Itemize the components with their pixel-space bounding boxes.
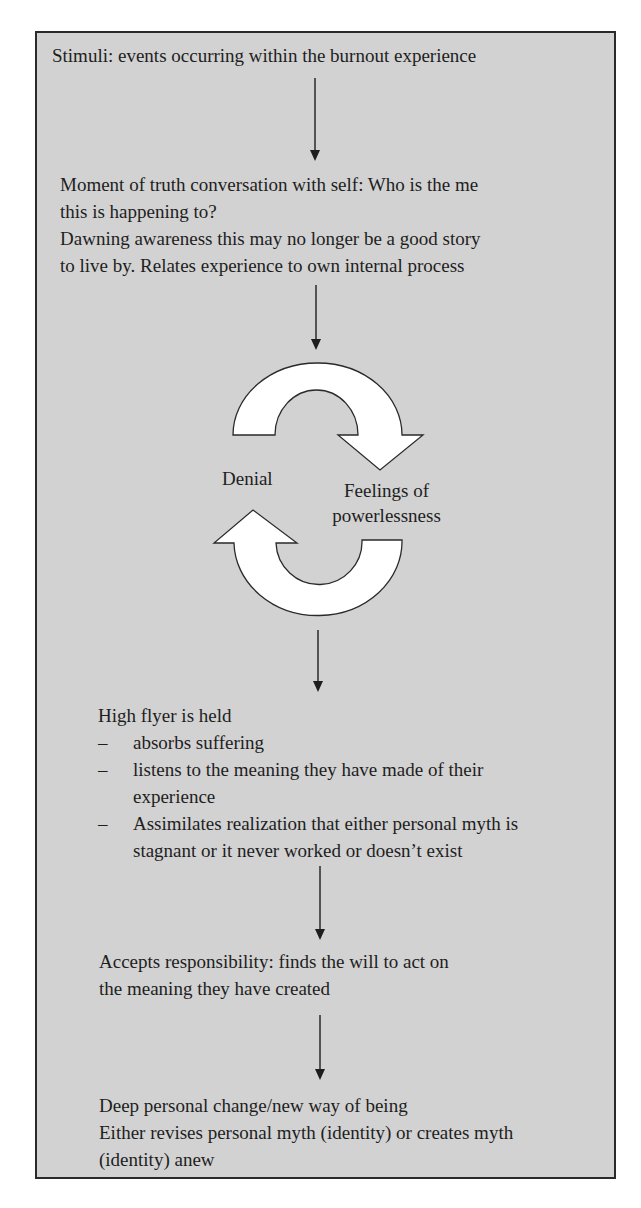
bullet-text: experience xyxy=(133,783,518,810)
powerlessness-label-line: Feelings of xyxy=(319,478,454,503)
bullet-dash: – xyxy=(98,729,108,756)
bullet-dash: – xyxy=(98,810,108,837)
cycle-label-denial: Denial xyxy=(222,466,273,491)
bullet-item: – Assimilates realization that either pe… xyxy=(98,810,518,864)
step-change-line: Either revises personal myth (identity) … xyxy=(99,1119,513,1146)
step-moment-line: Dawning awareness this may no longer be … xyxy=(60,225,481,252)
bullet-text: stagnant or it never worked or doesn’t e… xyxy=(133,837,518,864)
step-moment-line: this is happening to? xyxy=(60,198,481,225)
step-change-line: (identity) anew xyxy=(99,1146,513,1173)
step-stimuli: Stimuli: events occurring within the bur… xyxy=(52,42,476,69)
step-change: Deep personal change/new way of being Ei… xyxy=(99,1092,513,1173)
cycle-label-powerlessness: Feelings of powerlessness xyxy=(319,478,454,528)
step-accepts-line: the meaning they have created xyxy=(99,975,449,1002)
bullet-text: absorbs suffering xyxy=(133,729,518,756)
step-stimuli-line: Stimuli: events occurring within the bur… xyxy=(52,42,476,69)
step-held: High flyer is held – absorbs suffering –… xyxy=(98,702,518,864)
step-moment-line: to live by. Relates experience to own in… xyxy=(60,252,481,279)
powerlessness-label-line: powerlessness xyxy=(319,503,454,528)
bullet-dash: – xyxy=(98,756,108,783)
step-held-heading: High flyer is held xyxy=(98,702,518,729)
step-moment-line: Moment of truth conversation with self: … xyxy=(60,171,481,198)
bullet-item: – absorbs suffering xyxy=(98,729,518,756)
step-change-line: Deep personal change/new way of being xyxy=(99,1092,513,1119)
step-moment-of-truth: Moment of truth conversation with self: … xyxy=(60,171,481,279)
denial-label: Denial xyxy=(222,468,273,489)
bullet-text: Assimilates realization that either pers… xyxy=(133,810,518,837)
bullet-item: – listens to the meaning they have made … xyxy=(98,756,518,810)
step-accepts-line: Accepts responsibility: finds the will t… xyxy=(99,948,449,975)
bullet-text: listens to the meaning they have made of… xyxy=(133,756,518,783)
step-accepts: Accepts responsibility: finds the will t… xyxy=(99,948,449,1002)
